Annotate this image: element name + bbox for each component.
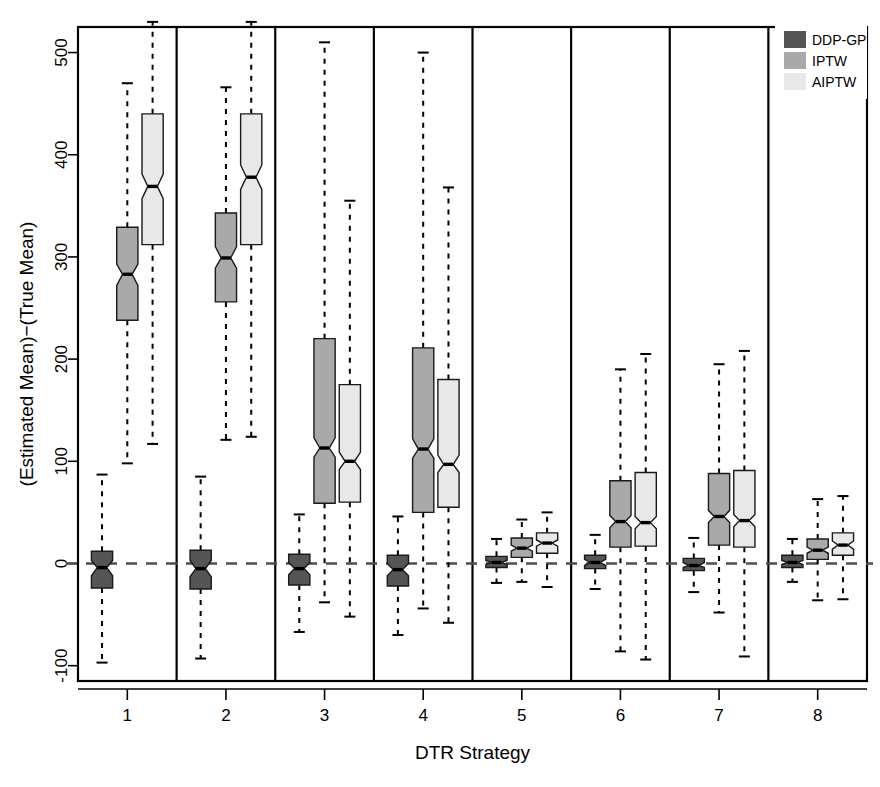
- legend-swatch-ddp-gp: [784, 31, 806, 48]
- box-body: [314, 339, 335, 504]
- box-body: [339, 385, 360, 503]
- y-axis-title: (Estimated Mean)−(True Mean): [16, 222, 37, 487]
- x-tick-label-5: 5: [517, 706, 526, 725]
- y-tick-label: -100: [52, 649, 71, 683]
- legend-label-ddp-gp: DDP-GP: [812, 32, 866, 48]
- box-body: [734, 470, 755, 547]
- x-tick-label-1: 1: [123, 706, 132, 725]
- y-tick-label: 200: [52, 345, 71, 373]
- y-tick-label: 500: [52, 38, 71, 66]
- x-tick-label-2: 2: [221, 706, 230, 725]
- chart-canvas: -1000100200300400500(Estimated Mean)−(Tr…: [0, 0, 880, 787]
- y-tick-label: 300: [52, 243, 71, 271]
- y-tick-label: 400: [52, 141, 71, 169]
- y-tick-label: 100: [52, 447, 71, 475]
- x-tick-label-6: 6: [616, 706, 625, 725]
- x-tick-label-4: 4: [418, 706, 427, 725]
- box-body: [142, 114, 163, 245]
- legend: DDP-GPIPTWAIPTW: [775, 24, 867, 99]
- box-body: [708, 474, 729, 546]
- legend-swatch-iptw: [784, 52, 806, 69]
- box-body: [438, 380, 459, 508]
- box-body: [635, 473, 656, 547]
- box-body: [610, 481, 631, 547]
- legend-label-iptw: IPTW: [812, 53, 848, 69]
- box-body: [413, 348, 434, 513]
- x-tick-label-8: 8: [813, 706, 822, 725]
- x-axis-title: DTR Strategy: [415, 742, 531, 763]
- legend-swatch-aiptw: [784, 73, 806, 90]
- x-tick-label-3: 3: [320, 706, 329, 725]
- boxplot-figure: -1000100200300400500(Estimated Mean)−(Tr…: [0, 0, 880, 787]
- legend-label-aiptw: AIPTW: [812, 74, 857, 90]
- x-tick-label-7: 7: [714, 706, 723, 725]
